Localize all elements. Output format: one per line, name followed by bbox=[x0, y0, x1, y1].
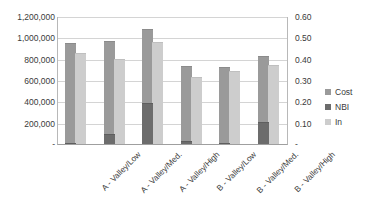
legend-label-nbi: NBI bbox=[335, 102, 349, 112]
right-axis-tick-2: 0.40 bbox=[295, 56, 312, 65]
category-label: A - Valley/Low bbox=[100, 150, 143, 193]
right-axis-tick-5: 0.10 bbox=[295, 120, 312, 129]
bar-nbi bbox=[219, 143, 230, 145]
bar-in bbox=[268, 65, 279, 144]
legend: Cost NBI In bbox=[325, 84, 373, 129]
bar-group bbox=[174, 17, 213, 144]
bar-in bbox=[114, 59, 125, 144]
bar-chart: 1,200,000 1,000,000 800,000 600,000 400,… bbox=[0, 0, 373, 217]
bar-group bbox=[251, 17, 290, 144]
bar-group bbox=[97, 17, 136, 144]
bar-nbi bbox=[181, 141, 192, 144]
legend-swatch-cost bbox=[325, 89, 331, 95]
right-axis-tick-0: 0.60 bbox=[295, 13, 312, 22]
category-axis-labels: A - Valley/LowA - Valley/Med.A - Valley/… bbox=[0, 145, 373, 217]
bar-in bbox=[75, 53, 86, 144]
legend-swatch-nbi bbox=[325, 104, 331, 110]
bar-in bbox=[191, 77, 202, 144]
bar-in bbox=[229, 71, 240, 144]
legend-item-in: In bbox=[325, 114, 373, 129]
left-axis-tick-3: 600,000 bbox=[24, 77, 55, 86]
legend-item-cost: Cost bbox=[325, 84, 373, 99]
legend-label-in: In bbox=[335, 117, 342, 127]
right-axis-tick-3: 0.30 bbox=[295, 77, 312, 86]
right-axis-tick-4: 0.20 bbox=[295, 98, 312, 107]
bar-group bbox=[212, 17, 251, 144]
bar-nbi bbox=[65, 143, 76, 145]
bar-nbi bbox=[142, 103, 153, 144]
category-label: A - Valley/High bbox=[177, 150, 221, 194]
bar-in bbox=[152, 42, 163, 144]
left-axis-tick-4: 400,000 bbox=[24, 98, 55, 107]
bar-group bbox=[58, 17, 97, 144]
left-axis-tick-1: 1,000,000 bbox=[17, 34, 55, 43]
legend-item-nbi: NBI bbox=[325, 99, 373, 114]
bar-nbi bbox=[104, 134, 115, 144]
right-axis-tick-1: 0.50 bbox=[295, 34, 312, 43]
legend-swatch-in bbox=[325, 119, 331, 125]
left-axis-tick-5: 200,000 bbox=[24, 120, 55, 129]
category-label: B - Valley/Low bbox=[215, 150, 258, 193]
left-axis-tick-0: 1,200,000 bbox=[17, 13, 55, 22]
legend-label-cost: Cost bbox=[335, 87, 352, 97]
left-axis-tick-2: 800,000 bbox=[24, 56, 55, 65]
bar-group bbox=[135, 17, 174, 144]
plot-area bbox=[57, 17, 288, 145]
bar-nbi bbox=[258, 122, 269, 144]
